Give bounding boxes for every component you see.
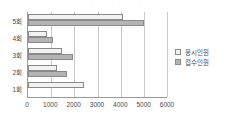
x-axis-tick-label: 0	[25, 101, 29, 108]
y-axis-tick-label: 2회	[0, 64, 25, 81]
gridline	[167, 12, 168, 97]
chart-title-strip: · · · · · · · · · · · · ·	[0, 0, 227, 9]
x-axis-tick-label: 5000	[136, 101, 150, 108]
bar-group	[28, 80, 167, 97]
y-axis-tick-label: 5회	[0, 12, 25, 29]
bar	[28, 20, 144, 26]
bar-group	[28, 63, 167, 80]
legend-label: 접수인원	[185, 57, 209, 67]
chart-legend: 응시인원접수인원	[175, 47, 225, 67]
bar	[28, 82, 84, 88]
legend-swatch-icon	[175, 59, 181, 65]
x-axis-tick-label: 6000	[160, 101, 174, 108]
bar-group	[28, 46, 167, 63]
x-axis-tick-labels: 0100020003000400050006000	[27, 101, 167, 113]
bar-rows	[28, 12, 167, 97]
legend-label: 응시인원	[185, 47, 209, 57]
y-axis-tick-label: 1회	[0, 81, 25, 98]
legend-item[interactable]: 응시인원	[175, 47, 225, 56]
x-axis-tick-label: 1000	[43, 101, 57, 108]
x-axis-tick-label: 4000	[113, 101, 127, 108]
legend-item[interactable]: 접수인원	[175, 57, 225, 66]
plot-area	[27, 12, 167, 98]
bar	[28, 54, 73, 60]
bar	[28, 71, 67, 77]
x-axis-tick-label: 2000	[66, 101, 80, 108]
bar-chart: · · · · · · · · · · · · · 5회4회3회2회1회 010…	[0, 0, 227, 123]
bar-group	[28, 12, 167, 29]
y-axis-tick-label: 3회	[0, 46, 25, 63]
legend-swatch-icon	[175, 49, 181, 55]
bar-group	[28, 29, 167, 46]
y-axis-tick-label: 4회	[0, 29, 25, 46]
x-axis-tick-label: 3000	[90, 101, 104, 108]
y-axis-tick-labels: 5회4회3회2회1회	[0, 12, 25, 98]
bar	[28, 37, 53, 43]
